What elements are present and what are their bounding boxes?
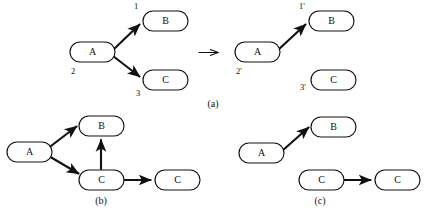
node-a-right-C: C [311, 70, 356, 90]
node-a-left-B-label: B [162, 15, 169, 26]
node-c-C2: C [375, 170, 420, 190]
panel-b: A B C C [7, 116, 200, 190]
port-label-3: 3 [136, 88, 140, 98]
node-a-left-A: A [70, 42, 115, 62]
node-a-right-A-label: A [254, 46, 262, 57]
node-b-A-label: A [26, 146, 34, 157]
node-c-C2-label: C [394, 174, 401, 185]
edge-a-right-A-to-B [278, 25, 306, 51]
port-label-1: 1 [134, 1, 138, 11]
node-a-right-B: B [309, 11, 354, 31]
node-a-left-C-label: C [162, 74, 169, 85]
port-label-2: 2 [71, 66, 75, 76]
node-c-C1-label: C [318, 174, 325, 185]
caption-b: (b) [95, 195, 107, 207]
node-b-C1: C [79, 170, 124, 190]
port-label-1-prime: 1' [299, 1, 305, 11]
panel-a-left-subgraph: A B C 1 2 3 [70, 1, 188, 98]
graph-transformation-figure: A B C 1 2 3 [0, 0, 424, 215]
node-a-left-B: B [143, 11, 188, 31]
node-b-A: A [7, 142, 52, 162]
caption-c: (c) [314, 195, 325, 207]
node-b-B: B [79, 116, 124, 136]
edge-b-A-to-B [47, 127, 77, 150]
node-a-left-A-label: A [89, 46, 97, 57]
node-a-right-B-label: B [328, 15, 335, 26]
node-b-C2: C [155, 170, 200, 190]
caption-a: (a) [207, 98, 218, 110]
edge-b-A-to-C1 [47, 155, 79, 174]
panel-a-right-subgraph: A B C 1' 2' 3' [235, 1, 356, 92]
edge-a-left-A-to-B [113, 25, 140, 51]
port-label-3-prime: 3' [300, 82, 306, 92]
edge-a-left-A-to-C [113, 56, 140, 77]
edge-c-A-to-B [282, 128, 309, 152]
node-c-A: A [239, 143, 284, 163]
node-a-right-C-label: C [330, 74, 337, 85]
node-a-right-A: A [235, 42, 280, 62]
node-c-B: B [311, 117, 356, 137]
node-b-B-label: B [98, 120, 105, 131]
node-c-A-label: A [258, 147, 266, 158]
panel-c: A B C C [239, 117, 420, 190]
node-b-C1-label: C [98, 174, 105, 185]
node-a-left-C: C [143, 70, 188, 90]
node-b-C2-label: C [174, 174, 181, 185]
node-c-C1: C [299, 170, 344, 190]
port-label-2-prime: 2' [236, 66, 242, 76]
node-c-B-label: B [330, 121, 337, 132]
